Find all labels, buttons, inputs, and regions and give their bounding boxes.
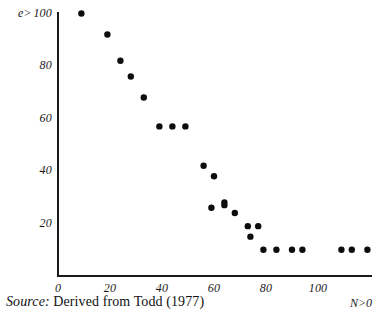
data-point: [221, 202, 227, 208]
source-note-text: Derived from Todd (1977): [50, 294, 204, 309]
data-point: [349, 247, 355, 253]
y-tick-label: 40: [12, 163, 52, 178]
data-point: [117, 58, 123, 64]
plot-area: 20406080100 020406080100: [0, 0, 380, 320]
data-point: [141, 94, 147, 100]
chart-canvas: [0, 0, 380, 320]
x-axis-title: N>0: [350, 296, 372, 311]
scatter-plot-figure: 20406080100 020406080100 e> N>0 Source: …: [0, 0, 380, 320]
data-point: [208, 205, 214, 211]
data-point: [260, 247, 266, 253]
x-tick-label: 100: [303, 281, 333, 296]
x-tick-label: 80: [251, 281, 281, 296]
y-tick-label: 80: [12, 58, 52, 73]
source-note: Source: Derived from Todd (1977): [6, 294, 204, 310]
data-point: [182, 123, 188, 129]
data-point: [78, 10, 84, 16]
data-point: [255, 223, 261, 229]
data-point: [128, 73, 134, 79]
y-tick-label: 20: [12, 216, 52, 231]
y-tick-label: 60: [12, 111, 52, 126]
data-point: [200, 163, 206, 169]
source-note-label: Source:: [6, 294, 50, 309]
data-point: [211, 173, 217, 179]
data-point: [232, 210, 238, 216]
data-point: [273, 247, 279, 253]
data-point: [364, 247, 370, 253]
y-axis-title: e>: [18, 6, 31, 21]
data-point: [338, 247, 344, 253]
data-point: [289, 247, 295, 253]
data-point: [156, 123, 162, 129]
data-point: [104, 31, 110, 37]
data-point: [245, 223, 251, 229]
data-points-group: [78, 10, 370, 253]
data-point: [169, 123, 175, 129]
data-point: [247, 233, 253, 239]
data-point: [299, 247, 305, 253]
axis-lines: [58, 12, 372, 276]
